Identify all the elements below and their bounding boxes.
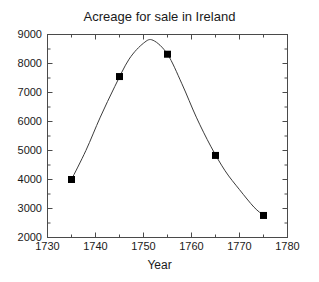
x-tick-label: 1780 xyxy=(268,240,308,252)
x-axis-title: Year xyxy=(0,258,319,272)
x-tick-label: 1760 xyxy=(172,240,212,252)
y-tick-label: 9000 xyxy=(2,28,42,40)
data-point-markers xyxy=(68,51,267,219)
y-tick-label: 8000 xyxy=(2,57,42,69)
axes-frame xyxy=(48,35,288,238)
y-tick-label: 4000 xyxy=(2,173,42,185)
x-tick-label: 1770 xyxy=(220,240,260,252)
x-tick-label: 1750 xyxy=(124,240,164,252)
axis-ticks xyxy=(48,35,288,238)
y-tick-label: 3000 xyxy=(2,202,42,214)
fitted-curve xyxy=(72,40,264,216)
chart-figure: Acreage for sale in Ireland 200030004000… xyxy=(0,0,319,282)
y-tick-label: 6000 xyxy=(2,115,42,127)
y-tick-label: 7000 xyxy=(2,86,42,98)
x-tick-label: 1740 xyxy=(76,240,116,252)
y-tick-label: 5000 xyxy=(2,144,42,156)
x-tick-label: 1730 xyxy=(28,240,68,252)
